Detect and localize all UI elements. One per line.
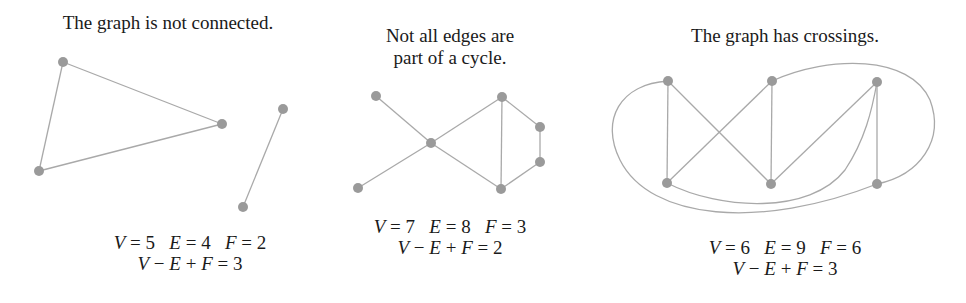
graph-vertex (766, 179, 776, 189)
graph-vertex (58, 57, 68, 67)
graph-edge (39, 124, 222, 171)
graph-vertex (34, 166, 44, 176)
graph-edge (243, 109, 283, 207)
panel-2-euler: V − E + F = 2 (335, 237, 565, 258)
panel-3-euler: V − E + F = 3 (640, 258, 930, 279)
graph-vertex (872, 179, 882, 189)
graph-vertex (535, 122, 545, 132)
graph-edge (771, 82, 877, 184)
graph-vertex (353, 183, 363, 193)
graph-edge (376, 96, 431, 143)
graph-edge (431, 143, 501, 189)
panel-1-counts: V = 5 E = 4 F = 2 (40, 232, 340, 253)
graph-vertex (496, 184, 506, 194)
graph-edge (63, 62, 222, 124)
graph-vertex (426, 138, 436, 148)
panel-3-caption: The graph has crossings. (640, 25, 930, 47)
graph-vertex (535, 157, 545, 167)
graph-vertex (238, 202, 248, 212)
graph-1 (34, 57, 288, 212)
graph-3 (612, 63, 934, 212)
panel-3-counts: V = 6 E = 9 F = 6 (640, 237, 930, 258)
graph-vertex (217, 119, 227, 129)
graph-2 (353, 91, 545, 194)
graph-vertex (767, 76, 777, 86)
graph-vertex (872, 77, 882, 87)
caption-line: part of a cycle. (340, 47, 560, 69)
caption-line: The graph has crossings. (640, 25, 930, 47)
graph-curved-edge (772, 63, 934, 184)
graph-curved-edge (612, 81, 877, 213)
graph-edge (501, 97, 502, 189)
graph-edge (502, 97, 540, 127)
graph-edge (501, 162, 540, 189)
panel-1-euler: V − E + F = 3 (40, 253, 340, 274)
panel-2-counts: V = 7 E = 8 F = 3 (335, 216, 565, 237)
graph-vertex (663, 76, 673, 86)
graph-edge (431, 97, 502, 143)
graph-edge (771, 81, 772, 184)
graph-vertex (662, 178, 672, 188)
graph-edge (358, 143, 431, 188)
graph-edge (667, 81, 668, 183)
panel-2-caption: Not all edges are part of a cycle. (340, 25, 560, 69)
caption-line: The graph is not connected. (20, 12, 316, 34)
graph-vertex (278, 104, 288, 114)
caption-line: Not all edges are (340, 25, 560, 47)
panel-1-caption: The graph is not connected. (20, 12, 316, 34)
graph-vertex (497, 92, 507, 102)
graph-vertex (371, 91, 381, 101)
graph-edge (39, 62, 63, 171)
